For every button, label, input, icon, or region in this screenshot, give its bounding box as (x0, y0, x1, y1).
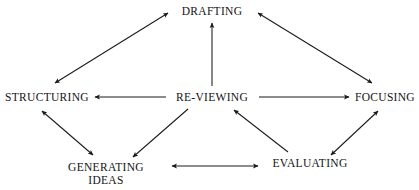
edge-evaluating-reviewing (234, 110, 288, 152)
edge-structuring-generating (42, 111, 93, 155)
writing-process-diagram: DRAFTING STRUCTURING RE-VIEWING FOCUSING… (0, 0, 419, 190)
node-evaluating: EVALUATING (273, 157, 348, 170)
edge-reviewing-generating (133, 109, 188, 157)
node-reviewing: RE-VIEWING (176, 91, 248, 104)
edge-evaluating-focusing (331, 111, 378, 155)
node-generating-ideas: GENERATING IDEAS (68, 161, 144, 187)
node-focusing: FOCUSING (355, 91, 415, 104)
edge-structuring-drafting (55, 13, 168, 83)
edge-drafting-focusing (258, 13, 372, 83)
node-structuring: STRUCTURING (5, 91, 89, 104)
node-drafting: DRAFTING (182, 5, 243, 18)
